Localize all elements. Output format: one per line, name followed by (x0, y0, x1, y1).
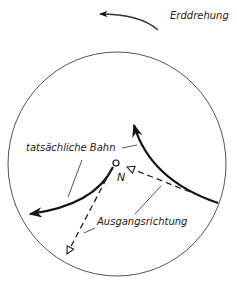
north-pole-label: N (117, 171, 125, 184)
coriolis-diagram: Erddrehung N tatsächliche Bahn Ausgangsr… (0, 0, 237, 283)
actual-path-right-arrow (134, 125, 218, 203)
actual-path-leader-left (68, 160, 82, 197)
actual-path-label: tatsächliche Bahn (26, 142, 116, 153)
initial-direction-leader-left (84, 228, 95, 233)
earth-rotation-arrow (100, 14, 158, 30)
initial-direction-leader-right (135, 186, 161, 214)
north-pole-point (113, 160, 119, 166)
actual-path-leader-right (122, 145, 137, 148)
initial-direction-right-arrow (127, 167, 218, 203)
earth-rotation-label: Erddrehung (170, 10, 229, 21)
initial-direction-label: Ausgangsrichtung (96, 216, 187, 227)
